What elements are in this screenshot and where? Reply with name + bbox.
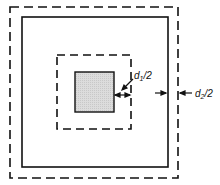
- d2-half-label: d2/2: [195, 88, 213, 100]
- shaded-core-square: [75, 72, 114, 112]
- d1-half-label: d1/2: [134, 70, 152, 82]
- d2-dimension-arrows: [155, 91, 192, 95]
- nested-squares-diagram: d1/2 d2/2: [0, 0, 220, 185]
